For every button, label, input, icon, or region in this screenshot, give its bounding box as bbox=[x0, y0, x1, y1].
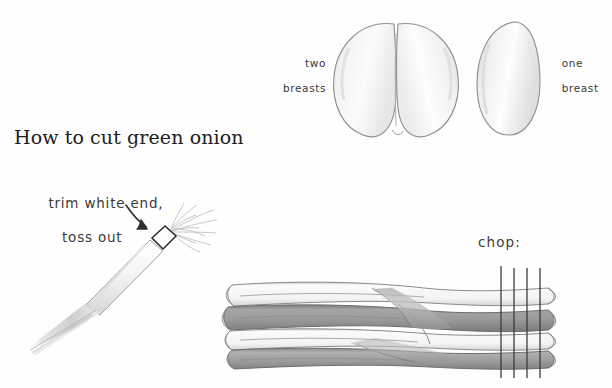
two-breasts-label-line2: breasts bbox=[283, 82, 326, 94]
chop-label: chop: bbox=[478, 234, 521, 250]
page-title: How to cut green onion bbox=[14, 126, 244, 148]
two-breasts-label: two breasts bbox=[262, 44, 326, 107]
green-onion-bundle-drawing bbox=[222, 266, 555, 378]
trim-instruction-label: trim white end, toss out bbox=[28, 178, 163, 280]
illustration-canvas: two breasts one breast How to cut green … bbox=[0, 0, 612, 388]
trim-instruction-line2: toss out bbox=[28, 229, 163, 246]
root-fringe bbox=[170, 203, 217, 252]
trim-instruction-line1: trim white end, bbox=[48, 195, 163, 211]
one-breast-drawing bbox=[477, 22, 540, 135]
one-breast-label-line1: one bbox=[562, 57, 583, 69]
two-breasts-drawing bbox=[334, 24, 459, 137]
one-breast-label-line2: breast bbox=[562, 82, 599, 94]
one-breast-label: one breast bbox=[546, 44, 608, 107]
two-breasts-label-line1: two bbox=[305, 57, 326, 69]
green-blade bbox=[28, 303, 100, 355]
